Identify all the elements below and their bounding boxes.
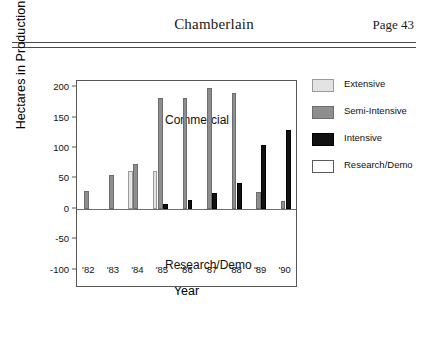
page-number: Page 43 — [372, 17, 414, 33]
bar-research-demo-82 — [95, 209, 100, 210]
bar-intensive-86 — [188, 200, 193, 209]
plot-area: Commercial Research/Demo . — [76, 80, 297, 287]
bar-semi-intensive-83 — [109, 175, 114, 209]
chart-legend: Extensive Semi-Intensive Intensive Resea… — [312, 78, 424, 186]
x-tick-label: '84 — [131, 264, 143, 275]
bar-semi-intensive-90 — [281, 201, 286, 209]
bar-research-demo-90 — [291, 209, 296, 210]
x-tick-label: '88 — [229, 264, 241, 275]
y-tick-mark — [72, 268, 76, 269]
y-tick-mark — [72, 177, 76, 178]
x-tick-label: '86 — [180, 264, 192, 275]
legend-label-semi-intensive: Semi-Intensive — [344, 105, 407, 116]
x-tick-label: '87 — [205, 264, 217, 275]
x-tick-label: '83 — [107, 264, 119, 275]
y-axis-label: Hectares in Production — [14, 0, 28, 150]
bar-research-demo-87 — [218, 209, 223, 267]
bar-semi-intensive-89 — [256, 192, 261, 208]
bar-chart-figure: Hectares in Production Year Commercial R… — [0, 52, 428, 344]
legend-label-extensive: Extensive — [344, 78, 385, 89]
bar-semi-intensive-88 — [232, 93, 237, 209]
bar-intensive-90 — [286, 130, 291, 209]
bar-semi-intensive-87 — [207, 88, 212, 209]
legend-swatch-extensive-icon — [312, 79, 334, 92]
bar-semi-intensive-84 — [133, 164, 138, 208]
bar-research-demo-88 — [242, 209, 247, 281]
bar-semi-intensive-82 — [84, 191, 89, 209]
legend-item-research-demo: Research/Demo — [312, 159, 424, 186]
legend-label-intensive: Intensive — [344, 132, 382, 143]
x-tick-label: '85 — [156, 264, 168, 275]
zero-baseline — [77, 209, 296, 210]
bar-research-demo-85 — [168, 209, 173, 210]
bar-extensive-85 — [153, 171, 158, 209]
legend-swatch-research-demo-icon — [312, 160, 334, 173]
bar-extensive-84 — [128, 171, 133, 209]
y-tick-label: 0 — [37, 202, 69, 213]
annotation-commercial: Commercial — [165, 113, 229, 127]
legend-item-intensive: Intensive — [312, 132, 424, 159]
header-divider-rule — [12, 42, 416, 48]
legend-swatch-semi-intensive-icon — [312, 106, 334, 119]
y-tick-mark — [72, 116, 76, 117]
bar-intensive-88 — [237, 183, 242, 209]
y-tick-label: 50 — [37, 172, 69, 183]
y-tick-label: 100 — [37, 141, 69, 152]
y-tick-mark — [72, 207, 76, 208]
bar-intensive-89 — [261, 145, 266, 209]
bar-research-demo-84 — [144, 209, 149, 210]
legend-item-extensive: Extensive — [312, 78, 424, 105]
bar-semi-intensive-86 — [183, 98, 188, 209]
x-tick-label: '82 — [82, 264, 94, 275]
running-head-title: Chamberlain — [0, 16, 428, 33]
legend-item-semi-intensive: Semi-Intensive — [312, 105, 424, 132]
legend-label-research-demo: Research/Demo — [344, 159, 413, 170]
page-header: Chamberlain Page 43 — [0, 0, 428, 52]
y-tick-label: 150 — [37, 111, 69, 122]
y-tick-label: -100 — [37, 263, 69, 274]
bar-semi-intensive-85 — [158, 98, 163, 209]
y-tick-label: 200 — [37, 81, 69, 92]
legend-swatch-intensive-icon — [312, 133, 334, 146]
y-tick-mark — [72, 238, 76, 239]
y-tick-mark — [72, 146, 76, 147]
bar-research-demo-89 — [267, 209, 272, 211]
bar-intensive-85 — [163, 204, 168, 209]
x-tick-label: '90 — [279, 264, 291, 275]
y-tick-label: -50 — [37, 233, 69, 244]
x-tick-label: '89 — [254, 264, 266, 275]
y-tick-mark — [72, 86, 76, 87]
bar-intensive-87 — [212, 193, 217, 209]
bar-research-demo-86 — [193, 209, 198, 241]
bar-research-demo-83 — [119, 209, 124, 210]
